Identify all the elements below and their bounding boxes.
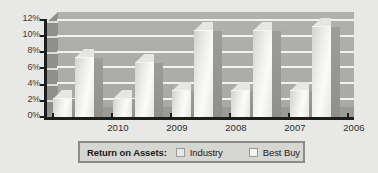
x-axis-tick-label: 2009 [155, 122, 199, 134]
legend-title: Return on Assets: [87, 147, 167, 158]
x-axis-tick-label: 2006 [332, 122, 376, 134]
y-axis-tick [40, 100, 45, 102]
bar-front-face [253, 30, 272, 120]
y-axis-tick-label: 4% [6, 79, 40, 88]
y-axis-tick-label: 0% [6, 111, 40, 120]
y-axis-tick [40, 67, 45, 69]
x-axis-tick [111, 113, 113, 118]
x-axis-tick-label: 2007 [273, 122, 317, 134]
y-axis-tick [40, 51, 45, 53]
y-axis-tick [40, 116, 45, 118]
bar-industry-2007 [231, 91, 250, 120]
legend-entry-industry: Industry [176, 147, 223, 158]
y-axis-tick-label: 12% [6, 14, 40, 23]
bar-front-face [135, 62, 154, 120]
legend-entry-bestbuy: Best Buy [249, 147, 300, 158]
bar-side-face [331, 27, 340, 120]
x-axis-tick [170, 113, 172, 118]
legend-label-bestbuy: Best Buy [263, 147, 300, 158]
y-axis-tick [40, 35, 45, 37]
x-axis-tick [288, 113, 290, 118]
bar-front-face [75, 57, 94, 120]
y-axis-tick-label: 8% [6, 46, 40, 55]
bar-industry-2006 [290, 91, 309, 120]
bar-side-face [154, 63, 163, 120]
y-axis-tick [40, 19, 45, 21]
bar-front-face [172, 90, 191, 120]
x-axis-tick-label: 2010 [96, 122, 140, 134]
plot-area [44, 12, 354, 120]
bar-bestbuy-2007 [253, 31, 272, 120]
x-axis-tick [52, 113, 54, 118]
y-axis-tick-label: 2% [6, 95, 40, 104]
bar-bestbuy-2006 [312, 27, 331, 120]
x-axis-tick-label: 2008 [214, 122, 258, 134]
x-axis-tick [347, 113, 349, 118]
chart-legend: Return on Assets: Industry Best Buy [78, 141, 305, 163]
return-on-assets-chart: 12% 10% 8% 6% 4% 2% 0% [0, 0, 378, 173]
bar-front-face [231, 90, 250, 120]
legend-swatch-bestbuy [249, 148, 258, 157]
bar-bestbuy-2010 [75, 58, 94, 120]
bar-bestbuy-2009 [135, 63, 154, 120]
x-axis-tick [229, 113, 231, 118]
bar-front-face [312, 26, 331, 120]
bar-side-face [272, 31, 281, 120]
bar-side-face [213, 31, 222, 120]
legend-label-industry: Industry [190, 147, 223, 158]
bar-industry-2008 [172, 91, 191, 120]
bar-front-face [290, 90, 309, 120]
y-axis-tick-label: 6% [6, 63, 40, 72]
x-axis-labels: 2010 2009 2008 2007 2006 [44, 122, 354, 136]
y-axis-tick [40, 84, 45, 86]
bar-front-face [194, 30, 213, 120]
y-axis-labels: 12% 10% 8% 6% 4% 2% 0% [6, 14, 40, 120]
bar-bestbuy-2008 [194, 31, 213, 120]
x-axis-line [44, 117, 354, 120]
bar-side-face [94, 58, 103, 120]
gridline [57, 19, 354, 21]
legend-swatch-industry [176, 148, 185, 157]
y-axis-tick-label: 10% [6, 30, 40, 39]
